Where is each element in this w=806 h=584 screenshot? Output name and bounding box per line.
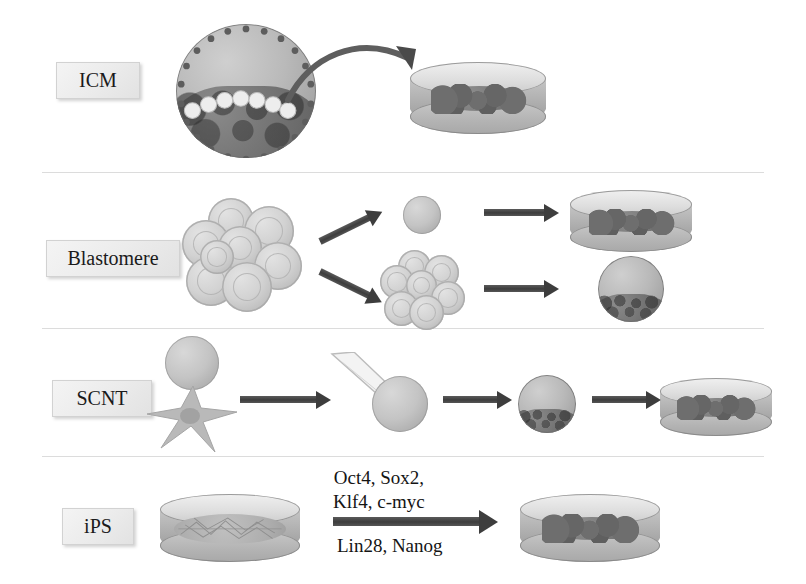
scnt-plating-arrow (592, 396, 648, 403)
blastomere-branch-arrow-up (318, 214, 371, 245)
factors-line-1: Oct4, Sox2, (333, 466, 425, 490)
zona-pellucida (598, 256, 664, 322)
ips-colony (545, 517, 637, 540)
scnt-development-arrow (443, 396, 499, 403)
row-divider-1 (42, 172, 764, 173)
zona-pellucida (518, 375, 576, 433)
embryo-development-arrow (484, 285, 546, 292)
culture-dish-icm (410, 62, 546, 134)
stem-cell-derivation-figure: ICM (0, 0, 806, 584)
morula-blastomere (178, 198, 310, 314)
row-divider-3 (42, 456, 764, 457)
factors-line-3: Lin28, Nanog (337, 534, 443, 558)
factors-line-2: Klf4, c-myc (333, 490, 425, 514)
fibroblast-donor-cell (145, 382, 241, 456)
row-label-blastomere: Blastomere (46, 240, 180, 277)
row-label-scnt: SCNT (52, 380, 152, 417)
single-blastomere (403, 196, 441, 234)
reconstructed-oocyte (372, 376, 428, 432)
stem-cell-colony (680, 398, 754, 418)
stem-cell-colony (434, 86, 524, 110)
culture-dish-blastomere (570, 190, 692, 252)
scnt-transfer-arrow (240, 396, 318, 403)
blastocyst-scnt (518, 375, 576, 433)
reprogramming-factors-above: Oct4, Sox2, Klf4, c-myc (333, 466, 425, 514)
culture-dish-scnt (660, 378, 772, 436)
blastomere-branch-arrow-down (318, 268, 371, 299)
blastomere-culture-arrow (484, 209, 546, 216)
reprogramming-factors-below: Lin28, Nanog (337, 534, 443, 558)
culture-dish-ips (520, 494, 660, 562)
stem-cell-colony (592, 211, 673, 232)
residual-embryo (378, 250, 470, 330)
blastocyst-blastomere (598, 256, 664, 322)
row-label-icm: ICM (56, 62, 140, 99)
reprogramming-arrow (333, 517, 481, 526)
fibroblast-culture-dish (160, 494, 300, 562)
row-label-ips: iPS (62, 508, 134, 545)
